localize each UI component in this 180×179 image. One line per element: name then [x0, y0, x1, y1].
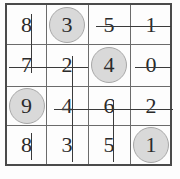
grid-cell-r3c1[interactable]: 9 — [7, 86, 46, 125]
grid-cell-r2c4[interactable]: 0 — [130, 44, 172, 86]
cell-digit: 1 — [146, 134, 157, 156]
cell-digit: 4 — [62, 95, 73, 117]
cell-digit: 5 — [104, 14, 115, 36]
number-grid-puzzle: 8 3 5 1 7 2 4 0 9 4 — [0, 0, 180, 179]
cell-digit: 4 — [104, 54, 115, 76]
grid-cell-r2c3[interactable]: 4 — [88, 44, 130, 86]
cell-digit: 3 — [62, 134, 73, 156]
cell-digit: 1 — [146, 14, 157, 36]
strike-line-vertical-col1-rows1-2 — [31, 14, 32, 73]
grid-cell-r4c3[interactable]: 5 — [88, 125, 130, 164]
grid-cell-r2c1[interactable]: 7 — [7, 44, 46, 86]
strike-line-horizontal-row2-col4 — [135, 67, 171, 68]
grid-cell-r4c4[interactable]: 1 — [130, 125, 172, 164]
grid-cell-r1c2[interactable]: 3 — [46, 5, 88, 44]
grid-cell-r1c4[interactable]: 1 — [130, 5, 172, 44]
cell-digit: 2 — [62, 54, 73, 76]
grid-cell-r4c1[interactable]: 8 — [7, 125, 46, 164]
grid-cell-r1c3[interactable]: 5 — [88, 5, 130, 44]
strike-line-horizontal-row1-cols3-4 — [96, 26, 171, 27]
strike-line-vertical-col1-row4 — [31, 133, 32, 160]
cell-digit: 0 — [146, 54, 157, 76]
strike-line-horizontal-row2-cols1-2 — [9, 67, 88, 68]
grid-cell-r1c1[interactable]: 8 — [7, 5, 46, 44]
grid-cell-r3c4[interactable]: 2 — [130, 86, 172, 125]
cell-digit: 2 — [146, 95, 157, 117]
strike-line-horizontal-row3-cols2-4 — [54, 109, 173, 110]
grid-cell-r2c2[interactable]: 2 — [46, 44, 88, 86]
grid-cell-r3c2[interactable]: 4 — [46, 86, 88, 125]
grid-cell-r3c3[interactable]: 6 — [88, 86, 130, 125]
cell-digit: 3 — [62, 14, 73, 36]
grid-cell-r4c2[interactable]: 3 — [46, 125, 88, 164]
cell-digit: 9 — [21, 95, 32, 117]
